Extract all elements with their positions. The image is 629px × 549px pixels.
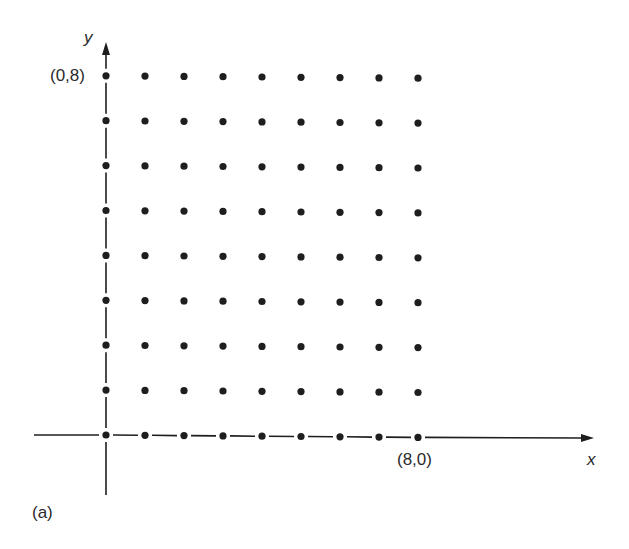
lattice-point [180, 73, 187, 80]
lattice-point [102, 431, 109, 438]
lattice-point [297, 253, 304, 260]
lattice-point [375, 434, 382, 441]
point-label-0-8: (0,8) [50, 66, 85, 86]
lattice-point [180, 118, 187, 125]
lattice-point [258, 118, 265, 125]
lattice-point [414, 164, 421, 171]
lattice-point [258, 343, 265, 350]
lattice-point [336, 433, 343, 440]
panel-label: (a) [32, 503, 53, 523]
lattice-point [336, 209, 343, 216]
lattice-point [336, 299, 343, 306]
lattice-point [219, 387, 226, 394]
lattice-point [180, 432, 187, 439]
lattice-point [375, 344, 382, 351]
lattice-point [180, 387, 187, 394]
lattice-point [414, 75, 421, 82]
lattice-point [180, 342, 187, 349]
axes [34, 42, 594, 495]
lattice-point [375, 119, 382, 126]
lattice-point [219, 298, 226, 305]
lattice-point [102, 72, 109, 79]
lattice-point [102, 207, 109, 214]
lattice-point [102, 387, 109, 394]
lattice-point [102, 342, 109, 349]
lattice-point [102, 117, 109, 124]
lattice-point [375, 74, 382, 81]
lattice-point [375, 254, 382, 261]
lattice-point [375, 299, 382, 306]
lattice-point [297, 388, 304, 395]
lattice-point [375, 164, 382, 171]
lattice-point [180, 252, 187, 259]
lattice-point [141, 432, 148, 439]
lattice-point [297, 298, 304, 305]
lattice-point [258, 163, 265, 170]
lattice-point [180, 208, 187, 215]
lattice-point [219, 163, 226, 170]
lattice-point [141, 117, 148, 124]
lattice-points [102, 72, 421, 441]
lattice-point [219, 253, 226, 260]
lattice-point [375, 389, 382, 396]
lattice-point [336, 119, 343, 126]
lattice-point [336, 254, 343, 261]
lattice-point [219, 343, 226, 350]
lattice-point [258, 208, 265, 215]
lattice-point [336, 164, 343, 171]
point-label-8-0: (8,0) [397, 450, 432, 470]
lattice-point [141, 252, 148, 259]
x-axis-label: x [587, 450, 596, 470]
lattice-point [297, 119, 304, 126]
lattice-point [102, 252, 109, 259]
lattice-point [141, 342, 148, 349]
lattice-point [141, 387, 148, 394]
lattice-diagram [0, 0, 629, 549]
lattice-point [219, 432, 226, 439]
y-axis-label: y [84, 28, 93, 48]
x-axis-arrow-icon [581, 434, 594, 442]
lattice-point [219, 208, 226, 215]
lattice-point [297, 208, 304, 215]
lattice-point [141, 207, 148, 214]
lattice-point [180, 297, 187, 304]
lattice-point [414, 299, 421, 306]
y-axis-arrow-icon [102, 42, 110, 55]
lattice-point [336, 343, 343, 350]
lattice-point [414, 389, 421, 396]
lattice-point [102, 297, 109, 304]
lattice-point [219, 118, 226, 125]
lattice-point [414, 434, 421, 441]
lattice-point [258, 388, 265, 395]
lattice-point [258, 433, 265, 440]
lattice-point [180, 163, 187, 170]
lattice-point [414, 254, 421, 261]
lattice-point [258, 298, 265, 305]
lattice-point [414, 344, 421, 351]
lattice-point [141, 162, 148, 169]
lattice-point [297, 433, 304, 440]
lattice-point [297, 343, 304, 350]
lattice-point [375, 209, 382, 216]
lattice-point [102, 162, 109, 169]
lattice-point [141, 297, 148, 304]
lattice-point [297, 74, 304, 81]
lattice-point [336, 388, 343, 395]
lattice-point [141, 73, 148, 80]
lattice-point [336, 74, 343, 81]
lattice-point [414, 120, 421, 127]
lattice-point [219, 73, 226, 80]
lattice-point [414, 209, 421, 216]
x-axis-segment [425, 437, 584, 438]
lattice-point [297, 164, 304, 171]
lattice-point [258, 253, 265, 260]
lattice-point [258, 73, 265, 80]
